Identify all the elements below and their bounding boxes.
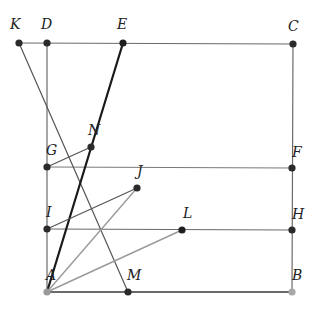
segments-layer [19,43,293,292]
point-h [288,226,295,233]
point-k [15,39,22,46]
label-m: M [126,267,142,283]
label-b: B [291,267,302,283]
point-e [119,39,126,46]
label-k: K [9,16,22,32]
segment-al [47,230,182,292]
segment-aj [47,188,137,292]
point-l [178,226,185,233]
labels-layer: KDECNGFJILHAMB [9,16,305,283]
label-j: J [134,163,144,179]
label-l: L [182,205,192,221]
label-i: I [45,204,52,220]
point-c [289,40,296,47]
label-e: E [116,16,127,32]
point-d [43,39,50,46]
label-d: D [40,16,52,32]
label-c: C [288,18,299,34]
label-h: H [291,206,305,222]
point-j [133,184,140,191]
segment-kc [19,43,293,44]
label-g: G [46,142,57,158]
point-n [87,143,94,150]
point-a [43,288,50,295]
point-f [288,164,295,171]
geometry-diagram: KDECNGFJILHAMB [0,0,318,314]
point-g [43,163,50,170]
label-a: A [44,267,56,283]
label-f: F [291,144,303,160]
point-i [43,225,50,232]
label-n: N [87,122,101,138]
segment-ih [47,229,292,230]
segment-ij [47,188,137,229]
point-b [288,288,295,295]
point-m [124,288,131,295]
